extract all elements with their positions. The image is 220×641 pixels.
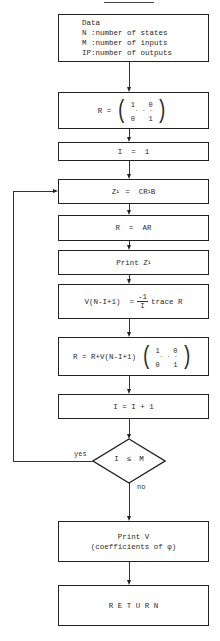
connector bbox=[129, 161, 130, 175]
r-update-box: R = R+V(N-I+1) ( 1 0 · · · 0 1 ) bbox=[58, 337, 209, 376]
print-zi-box: Print Zi bbox=[58, 250, 209, 275]
print-v-line2: (coefficients of φ) bbox=[91, 542, 177, 552]
connector bbox=[129, 562, 130, 581]
matrix-cell: 1 bbox=[173, 360, 177, 370]
matrix-cell: 0 bbox=[131, 114, 135, 124]
v-calc-rhs: trace R bbox=[151, 297, 183, 307]
i-inc-text: I = I + 1 bbox=[113, 402, 154, 412]
connector bbox=[129, 483, 130, 517]
r-update-lhs: R = R+V(N-I+1) bbox=[73, 352, 136, 362]
matrix-cell: 0 bbox=[156, 360, 160, 370]
print-v-line1: Print V bbox=[91, 532, 177, 542]
decision-op: ≤ bbox=[127, 455, 132, 463]
connector bbox=[129, 376, 130, 390]
zi-b: B bbox=[151, 187, 156, 197]
zi-box: Zi = CRiB bbox=[58, 179, 209, 204]
data-line-n: N :number of states bbox=[82, 28, 172, 38]
loop-connector bbox=[13, 191, 53, 192]
fraction-denominator: I bbox=[140, 302, 145, 310]
decision-left: I bbox=[114, 455, 119, 463]
data-box: Data N :number of states M :number of in… bbox=[58, 14, 209, 62]
init-i-text: I = 1 bbox=[118, 147, 150, 157]
connector bbox=[129, 319, 130, 333]
arrow-right-icon bbox=[53, 189, 58, 193]
identity-matrix: ( 1 0 · · · 0 1 ) bbox=[139, 344, 194, 370]
decision-right: M bbox=[139, 455, 144, 463]
identity-matrix: ( 1 0 · · · 0 1 ) bbox=[114, 98, 169, 124]
r-ar-box: R = AR bbox=[58, 215, 209, 241]
matrix-cell: 1 bbox=[149, 114, 153, 124]
loop-connector bbox=[13, 191, 14, 462]
no-label: no bbox=[137, 483, 145, 491]
diagram-title: FORTRAN bbox=[104, 0, 154, 3]
data-heading: Data bbox=[82, 18, 172, 28]
init-r-box: R = ( 1 0 · · · 0 1 ) bbox=[58, 92, 209, 129]
i-inc-box: I = I + 1 bbox=[58, 394, 209, 419]
v-calc-box: V(N-I+1) = -1 I trace R bbox=[58, 284, 209, 319]
connector bbox=[129, 419, 130, 435]
return-box: R E T U R N bbox=[58, 585, 209, 626]
r-ar-text: R = AR bbox=[115, 223, 151, 233]
print-zi-text: Print Z bbox=[116, 258, 148, 268]
loop-connector bbox=[13, 461, 93, 462]
print-v-box: Print V (coefficients of φ) bbox=[58, 521, 209, 562]
data-line-m: M :number of inputs bbox=[82, 38, 172, 48]
zi-sub: i bbox=[116, 187, 119, 197]
init-i-box: I = 1 bbox=[58, 142, 209, 161]
connector bbox=[129, 62, 130, 88]
data-line-ip: IP:number of outputs bbox=[82, 48, 172, 58]
return-text: R E T U R N bbox=[109, 601, 159, 611]
fraction: -1 I bbox=[137, 293, 148, 310]
print-zi-sub: i bbox=[148, 258, 151, 268]
init-r-lhs: R = bbox=[98, 106, 112, 116]
decision-text: I≤M bbox=[94, 455, 164, 463]
fraction-numerator: -1 bbox=[137, 293, 148, 302]
yes-label: yes bbox=[74, 450, 87, 458]
zi-eq: = CR bbox=[125, 187, 148, 197]
v-calc-lhs: V(N-I+1) = bbox=[84, 297, 134, 307]
